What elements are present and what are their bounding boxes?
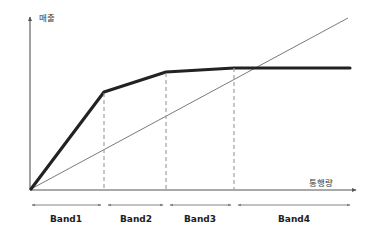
- revenue-curve: [31, 68, 350, 189]
- chart-figure: 매출 통행량 Band1 Band2 Band3 Band4: [0, 0, 372, 237]
- band-label-4: Band4: [278, 214, 310, 224]
- y-axis-label: 매출: [39, 11, 55, 23]
- chart-canvas: [0, 0, 372, 237]
- band-label-1: Band1: [50, 214, 82, 224]
- band-label-3: Band3: [184, 214, 216, 224]
- reference-diagonal-line: [31, 18, 348, 189]
- band-label-2: Band2: [120, 214, 152, 224]
- x-axis-label: 통행량: [309, 176, 333, 188]
